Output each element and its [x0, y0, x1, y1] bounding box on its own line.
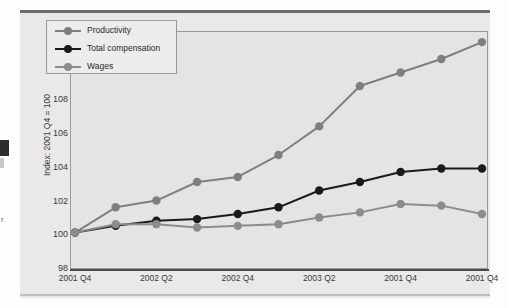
data-point-marker [234, 210, 242, 218]
legend-label: Productivity [87, 25, 131, 35]
data-point-marker [274, 151, 282, 159]
legend-item[interactable]: Total compensation [47, 41, 176, 57]
x-tick-label: 2001 Q4 [460, 273, 504, 284]
data-point-marker [274, 203, 282, 211]
data-point-marker [274, 220, 282, 228]
data-point-marker [437, 164, 445, 172]
data-point-marker [478, 164, 486, 172]
figure-container: Index: 2001 Q4 = 100 9810010210410610811… [20, 10, 490, 298]
data-point-marker [315, 186, 323, 194]
data-point-marker [396, 200, 404, 208]
data-point-marker [315, 213, 323, 221]
chart-legend: ProductivityTotal compensationWages [46, 20, 177, 74]
legend-label: Wages [87, 61, 113, 71]
x-tick-label: 2001 Q4 [379, 273, 423, 284]
y-tick-label: 98 [38, 263, 68, 273]
x-axis-tick-labels: 2001 Q42002 Q22002 Q42003 Q22001 Q42001 … [20, 273, 490, 291]
data-point-marker [356, 208, 364, 216]
legend-label: Total compensation [87, 43, 160, 53]
data-point-marker [315, 122, 323, 130]
data-point-marker [193, 215, 201, 223]
y-tick-label: 104 [38, 162, 68, 172]
data-point-marker [112, 220, 120, 228]
data-point-marker [437, 55, 445, 63]
figure-top-rule [20, 10, 490, 13]
data-point-marker [478, 38, 486, 46]
y-tick-label: 100 [38, 229, 68, 239]
chart-page: r Index: 2001 Q4 = 100 98100102104106108… [0, 0, 507, 308]
data-point-marker [396, 168, 404, 176]
data-point-marker [152, 220, 160, 228]
y-tick-label: 102 [38, 196, 68, 206]
data-point-marker [193, 178, 201, 186]
x-tick-label: 2001 Q4 [53, 273, 97, 284]
data-point-marker [356, 178, 364, 186]
legend-marker-icon [55, 27, 81, 35]
y-tick-label: 106 [38, 128, 68, 138]
data-point-marker [71, 228, 79, 236]
data-point-marker [396, 68, 404, 76]
data-point-marker [356, 82, 364, 90]
legend-marker-icon [55, 63, 81, 71]
x-tick-label: 2003 Q2 [297, 273, 341, 284]
data-point-marker [112, 203, 120, 211]
page-edge-artifact-block [0, 140, 9, 156]
x-axis-line [70, 269, 489, 271]
data-point-marker [234, 222, 242, 230]
data-point-marker [193, 223, 201, 231]
legend-item[interactable]: Wages [47, 59, 176, 75]
x-tick-label: 2002 Q2 [134, 273, 178, 284]
legend-item[interactable]: Productivity [47, 23, 176, 39]
legend-marker-icon [55, 45, 81, 53]
data-point-marker [437, 201, 445, 209]
page-edge-artifact-block-secondary [0, 158, 4, 168]
data-point-marker [478, 210, 486, 218]
figure-bottom-rule [20, 294, 490, 296]
page-edge-text-fragment: r [1, 215, 4, 225]
x-tick-label: 2002 Q4 [216, 273, 260, 284]
y-tick-label: 108 [38, 94, 68, 104]
data-point-marker [152, 196, 160, 204]
data-point-marker [234, 173, 242, 181]
